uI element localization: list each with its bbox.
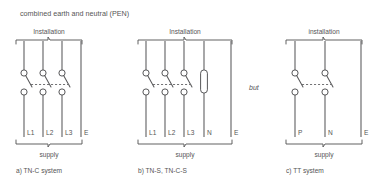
- pole-n-tt: N: [322, 41, 333, 137]
- installation-bracket-tn-s: [138, 37, 232, 44]
- pole-e-tn-s: E: [231, 41, 239, 137]
- terminal-label: E: [234, 129, 239, 136]
- pole-l2-tn-s: L2: [162, 41, 176, 137]
- caption-tn-c: a) TN-C system: [16, 167, 63, 175]
- pole-n-tn-s: N: [201, 41, 212, 137]
- panel-tt: installation P N: [286, 28, 369, 175]
- panel-tn-s: Installation L1 L2: [138, 28, 239, 175]
- connector-but: but: [249, 84, 260, 91]
- pole-e-tt: E: [361, 41, 369, 137]
- supply-label-tn-s: supply: [175, 151, 195, 159]
- terminal-label: L2: [46, 129, 54, 136]
- terminal-label: E: [364, 129, 369, 136]
- pole-p-tt: P: [292, 41, 303, 137]
- neutral-link-icon: [201, 70, 208, 93]
- caption-tn-s: b) TN-S, TN-C-S: [138, 167, 187, 175]
- supply-bracket-tn-c: [16, 140, 82, 147]
- pole-l3-tn-c: L3: [59, 41, 73, 137]
- caption-tt: c) TT system: [286, 167, 324, 175]
- panel-heading-tn-s: Installation: [169, 28, 201, 35]
- terminal-label: E: [84, 129, 89, 136]
- panel-tn-c: Installation L1 L2: [16, 28, 89, 175]
- pole-l3-tn-s: L3: [181, 41, 195, 137]
- terminal-label: L1: [149, 129, 157, 136]
- diagram-title: combined earth and neutral (PEN): [20, 9, 129, 18]
- supply-bracket-tn-s: [138, 140, 232, 147]
- electrical-systems-diagram: combined earth and neutral (PEN) Install…: [0, 0, 382, 183]
- panel-heading-tt: installation: [308, 28, 339, 35]
- pole-l1-tn-c: L1: [21, 41, 35, 137]
- pole-l1-tn-s: L1: [143, 41, 157, 137]
- installation-bracket-tt: [286, 37, 362, 44]
- panel-heading-tn-c: Installation: [33, 28, 65, 35]
- supply-bracket-tt: [286, 140, 362, 147]
- terminal-label: N: [207, 129, 212, 136]
- supply-label-tt: supply: [314, 151, 334, 159]
- terminal-label: L3: [65, 129, 73, 136]
- terminal-label: L1: [27, 129, 35, 136]
- pole-l2-tn-c: L2: [40, 41, 54, 137]
- supply-label-tn-c: supply: [39, 151, 59, 159]
- terminal-label: P: [298, 129, 303, 136]
- terminal-label: L2: [168, 129, 176, 136]
- terminal-label: N: [328, 129, 333, 136]
- terminal-label: L3: [187, 129, 195, 136]
- installation-bracket-tn-c: [16, 37, 82, 44]
- pole-e-tn-c: E: [81, 41, 89, 137]
